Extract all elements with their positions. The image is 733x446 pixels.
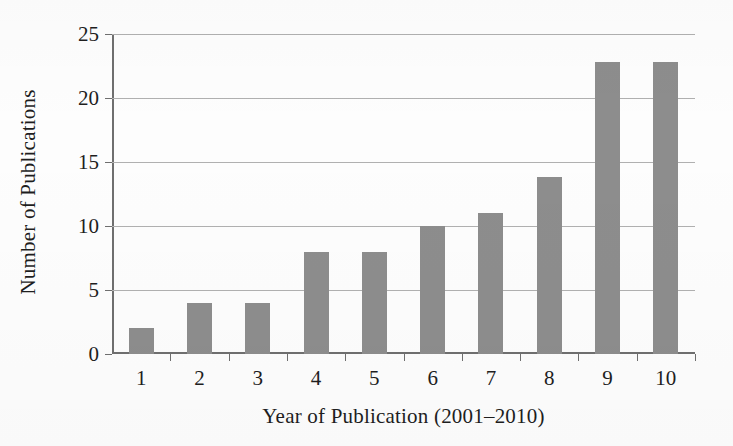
- bar: [420, 226, 445, 354]
- bar-chart-figure: Number of Publications 0510152025 123456…: [0, 0, 733, 446]
- bar: [187, 303, 212, 354]
- x-tick-mark: [520, 354, 521, 361]
- bar: [304, 252, 329, 354]
- bar: [595, 62, 620, 354]
- bar: [478, 213, 503, 354]
- x-tick-label: 2: [194, 368, 205, 389]
- y-tick-label: 10: [78, 216, 99, 237]
- x-tick-label: 9: [602, 368, 613, 389]
- y-axis-title: Number of Publications: [14, 22, 42, 362]
- y-tick-label: 15: [78, 152, 99, 173]
- x-tick-mark: [170, 354, 171, 361]
- y-tick-mark: [105, 34, 112, 35]
- x-tick-mark: [229, 354, 230, 361]
- x-tick-mark: [345, 354, 346, 361]
- x-tick-label: 10: [655, 368, 676, 389]
- x-tick-mark: [462, 354, 463, 361]
- y-tick-mark: [105, 290, 112, 291]
- y-tick-label: 0: [89, 344, 100, 365]
- bar: [245, 303, 270, 354]
- bar: [362, 252, 387, 354]
- x-tick-label: 7: [486, 368, 497, 389]
- x-tick-label: 4: [311, 368, 322, 389]
- gridline: [112, 34, 695, 35]
- x-tick-mark: [287, 354, 288, 361]
- y-tick-mark: [105, 162, 112, 163]
- x-tick-label: 1: [136, 368, 147, 389]
- y-tick-label: 25: [78, 24, 99, 45]
- y-tick-label: 5: [89, 280, 100, 301]
- x-tick-label: 8: [544, 368, 555, 389]
- y-tick-mark: [105, 354, 112, 355]
- x-tick-label: 3: [253, 368, 264, 389]
- x-tick-mark: [578, 354, 579, 361]
- x-tick-mark: [695, 354, 696, 361]
- x-tick-mark: [404, 354, 405, 361]
- plot-area: 0510152025 12345678910: [112, 34, 695, 354]
- y-tick-label: 20: [78, 88, 99, 109]
- bar: [653, 62, 678, 354]
- y-tick-mark: [105, 226, 112, 227]
- bar: [129, 328, 154, 354]
- x-axis-title: Year of Publication (2001–2010): [112, 404, 695, 429]
- bar: [537, 177, 562, 354]
- y-tick-mark: [105, 98, 112, 99]
- x-tick-label: 5: [369, 368, 380, 389]
- x-tick-label: 6: [427, 368, 438, 389]
- x-tick-mark: [637, 354, 638, 361]
